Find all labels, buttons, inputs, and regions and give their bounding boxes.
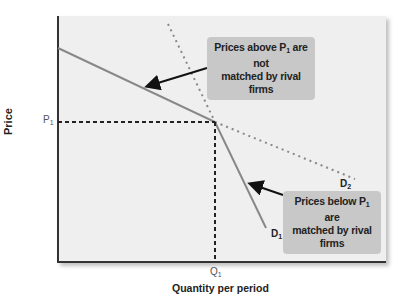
callout-text: matched by rival firms [221,70,301,95]
y-axis-label: Price [2,108,14,135]
subscript: 1 [366,201,370,208]
arrow-below [251,184,283,195]
d2-label: D2 [340,178,351,190]
demand-curve-d2-lower [215,122,355,179]
callout-text: Prices above P [214,41,286,53]
callout-text: Prices below P [294,195,365,207]
callout-above: Prices above P1 are not matched by rival… [207,37,315,100]
p1-tick-label: P1 [43,114,54,126]
callout-text: matched by rival firms [292,224,372,249]
x-axis-label: Quantity per period [172,282,269,294]
callout-below: Prices below P1 are matched by rival fir… [283,191,381,254]
callout-text: are [324,211,339,223]
d1-label: D1 [271,228,282,240]
arrow-above [148,68,207,86]
q1-tick-label: Q1 [210,266,222,278]
